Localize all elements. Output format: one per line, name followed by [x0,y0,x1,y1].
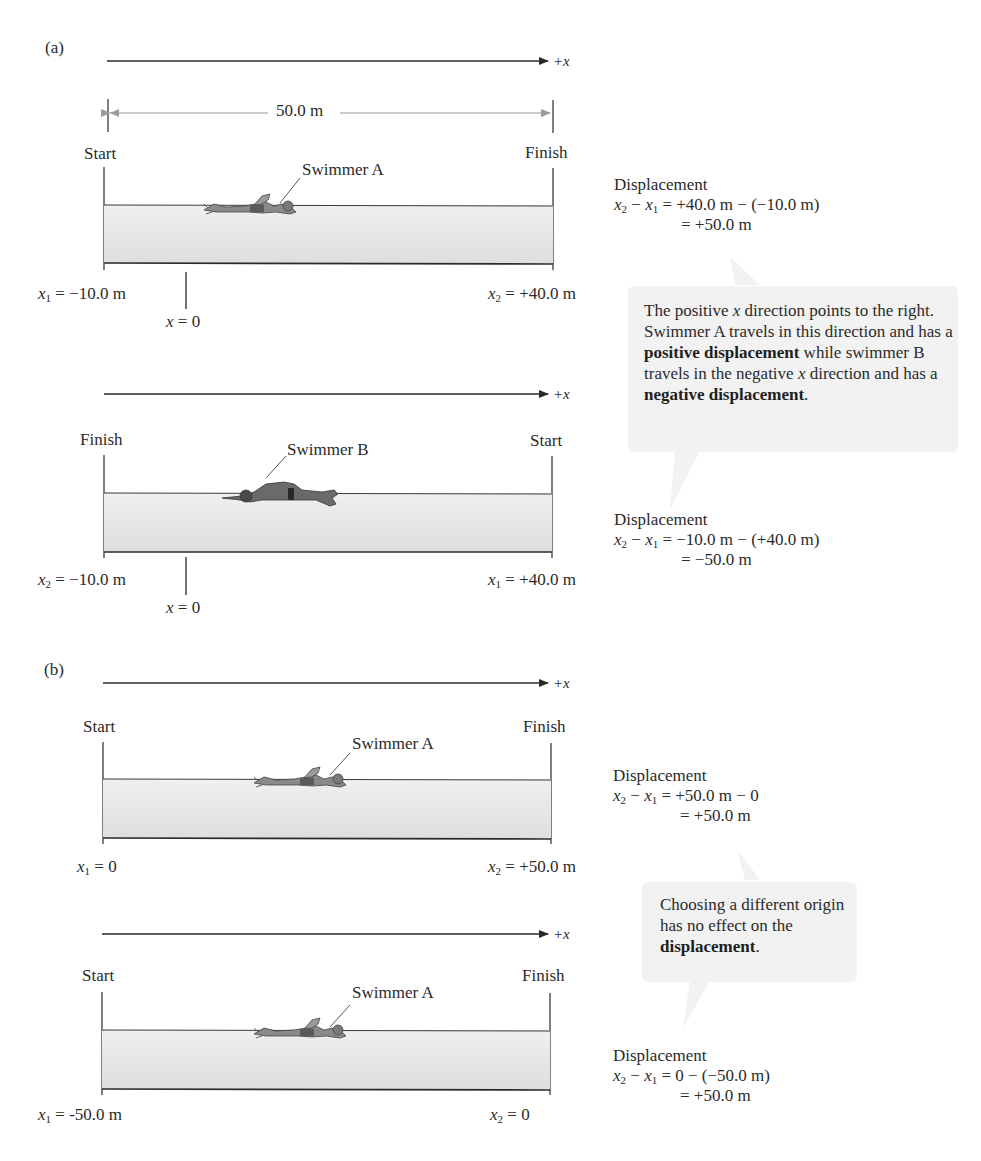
distance-label: 50.0 m [273,101,326,121]
callout-origin-note: Choosing a different origin has no effec… [642,882,857,982]
axis-label-a1: +x [553,51,570,71]
displacement-title: Displacement [613,766,759,786]
pool-b1-right-label: Finish [523,717,566,737]
pool-a2-x2-label: x2 = −10.0 m [38,570,126,590]
distance-dimension [108,99,553,133]
pool-b1-left-label: Start [83,717,115,737]
swimmer-label-a1: Swimmer A [302,160,384,180]
pool-a1-right-label: Finish [525,143,568,163]
swimmer-label-b1: Swimmer A [352,734,434,754]
displacement-b2: Displacement x2 − x1 = 0 − (−50.0 m) = +… [613,1046,770,1106]
pool-a1-x2-label: x2 = +40.0 m [488,284,576,304]
displacement-title: Displacement [614,175,819,195]
displacement-title: Displacement [613,1046,770,1066]
callout-direction-note: The positive x direction points to the r… [628,286,958,452]
displacement-a2: Displacement x2 − x1 = −10.0 m − (+40.0 … [614,510,819,570]
displacement-b1: Displacement x2 − x1 = +50.0 m − 0 = +50… [613,766,759,826]
axis-label-b1: +x [553,673,570,693]
pool-a2-origin-label: x = 0 [166,598,200,618]
pool-a2-left-label: Finish [80,430,123,450]
pool-b2 [102,992,550,1095]
pool-b1-x1-label: x1 = 0 [77,857,117,877]
pool-b2-left-label: Start [82,966,114,986]
swimmer-a-figure-b2 [254,1018,346,1038]
pool-a1-origin-label: x = 0 [166,312,200,332]
pool-b2-x1-label: x1 = -50.0 m [38,1105,122,1125]
pool-a1-x1-label: x1 = −10.0 m [38,284,126,304]
panel-b-label: (b) [44,660,64,680]
axis-label-b2: +x [553,924,570,944]
pool-a1-left-label: Start [84,144,116,164]
pool-a2-right-label: Start [530,431,562,451]
swimmer-a-figure [204,194,296,214]
swimmer-label-a2: Swimmer B [287,440,369,460]
swimmer-label-b2: Swimmer A [352,983,434,1003]
displacement-title: Displacement [614,510,819,530]
axis-label-a2: +x [553,384,570,404]
swimmer-a-figure-b1 [254,767,346,787]
pool-a2 [104,455,552,595]
pool-b2-right-label: Finish [522,966,565,986]
panel-a-label: (a) [45,38,64,58]
displacement-a1: Displacement x2 − x1 = +40.0 m − (−10.0 … [614,175,819,235]
pool-a2-x1-label: x1 = +40.0 m [488,570,576,590]
pool-b1 [103,742,551,844]
pool-a1 [104,167,553,309]
pool-b1-x2-label: x2 = +50.0 m [488,857,576,877]
pool-b2-x2-label: x2 = 0 [490,1105,530,1125]
